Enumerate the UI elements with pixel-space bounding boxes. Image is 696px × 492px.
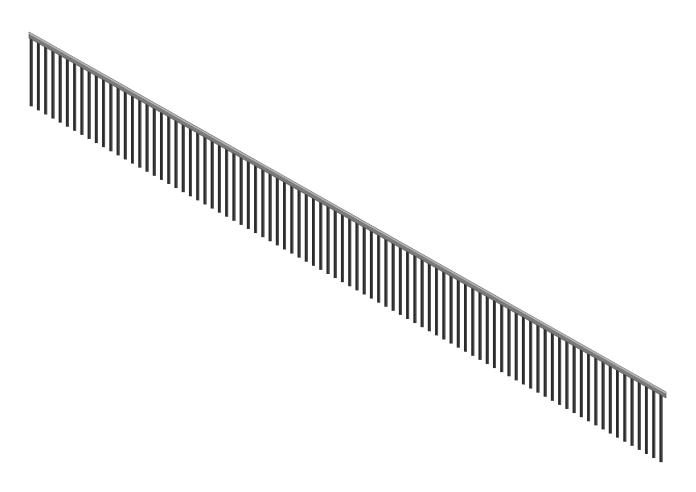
nail-shade <box>147 102 148 172</box>
nail-shade <box>176 118 177 188</box>
nail-shade <box>256 163 257 233</box>
nail-shade <box>415 253 416 323</box>
nail-shade <box>307 192 308 262</box>
nail-shade <box>292 184 293 254</box>
nail-shade <box>271 171 272 241</box>
nail-shade <box>509 306 510 376</box>
nail-shade <box>133 94 134 164</box>
nail-shade <box>473 286 474 356</box>
nail-shade <box>162 110 163 180</box>
nail-shade <box>365 224 366 294</box>
collation-bar <box>29 32 666 398</box>
nail-shade <box>452 274 453 344</box>
nail-shade <box>495 298 496 368</box>
nail-shade <box>401 245 402 315</box>
nail-shade <box>336 208 337 278</box>
nail-shade <box>300 188 301 258</box>
bar-highlight <box>29 33 666 393</box>
nail-shade <box>517 310 518 380</box>
nail-shade <box>582 347 583 417</box>
nail-shade <box>90 69 91 139</box>
nail-shade <box>205 134 206 204</box>
nail-shade <box>184 122 185 192</box>
nail-shade <box>466 282 467 352</box>
nail-shade <box>524 314 525 384</box>
nail-shade <box>140 98 141 168</box>
nail-shade <box>234 151 235 221</box>
nail-shade <box>61 53 62 123</box>
nail-shade <box>357 220 358 290</box>
nail-shade <box>567 339 568 409</box>
nail-shade <box>531 319 532 389</box>
nail-shade <box>242 155 243 225</box>
nail-shade <box>249 159 250 229</box>
nail-shade <box>285 179 286 249</box>
nail-shade <box>46 44 47 114</box>
nail-shade <box>75 61 76 131</box>
nails-group <box>30 36 663 462</box>
nail-shade <box>604 359 605 429</box>
nail-shade <box>82 65 83 135</box>
nail-shade <box>155 106 156 176</box>
nail-shade <box>169 114 170 184</box>
nail-shade <box>227 147 228 217</box>
nail-shade <box>278 175 279 245</box>
nail-shade <box>379 233 380 303</box>
nail-shade <box>386 237 387 307</box>
nail-shade <box>437 265 438 335</box>
nail-strip-illustration <box>0 0 696 492</box>
nail-shade <box>546 327 547 397</box>
nail-shade <box>661 392 662 462</box>
nail-shade <box>596 355 597 425</box>
nail-shade <box>68 57 69 127</box>
nail-shade <box>97 73 98 143</box>
nail-shade <box>314 196 315 266</box>
nail-shade <box>423 257 424 327</box>
nail-shade <box>119 85 120 155</box>
nail-shade <box>111 81 112 151</box>
nail-shade <box>408 249 409 319</box>
nail-shade <box>618 368 619 438</box>
nail-shade <box>459 278 460 348</box>
nail-shade <box>611 364 612 434</box>
nail-shade <box>640 380 641 450</box>
nail-strip-graphic <box>0 0 696 492</box>
nail-shade <box>625 372 626 442</box>
nail-shade <box>444 269 445 339</box>
nail-shade <box>575 343 576 413</box>
nail-shade <box>560 335 561 405</box>
nail-shade <box>39 40 40 110</box>
nail-shade <box>350 216 351 286</box>
nail-shade <box>53 49 54 119</box>
nail-shade <box>480 290 481 360</box>
nail-shade <box>502 302 503 372</box>
nail-shade <box>589 351 590 421</box>
nail-shade <box>654 388 655 458</box>
nail-shade <box>220 143 221 213</box>
nail-shade <box>647 384 648 454</box>
nail-shade <box>213 139 214 209</box>
nail-shade <box>430 261 431 331</box>
nail-shade <box>126 89 127 159</box>
nail-shade <box>328 204 329 274</box>
nail-shade <box>538 323 539 393</box>
nail-shade <box>553 331 554 401</box>
nail-shade <box>372 229 373 299</box>
nail-shade <box>104 77 105 147</box>
nail-shade <box>191 126 192 196</box>
nail-shade <box>321 200 322 270</box>
nail-shade <box>632 376 633 446</box>
nail-shade <box>263 167 264 237</box>
nail-shade <box>394 241 395 311</box>
nail-shade <box>343 212 344 282</box>
nail-shade <box>488 294 489 364</box>
nail-shade <box>32 36 33 106</box>
nail-shade <box>198 130 199 200</box>
